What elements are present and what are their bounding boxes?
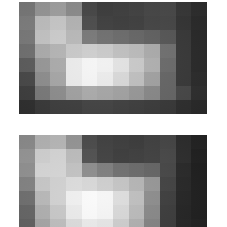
pixel-cell — [129, 135, 145, 149]
pixel-cell — [66, 135, 82, 149]
pixel-cell — [176, 16, 192, 30]
pixel-cell — [129, 72, 145, 86]
pixel-cell — [35, 191, 51, 205]
pixel-cell — [82, 72, 98, 86]
pixel-cell — [129, 177, 145, 191]
pixel-cell — [160, 205, 176, 219]
pixel-cell — [35, 135, 51, 149]
pixel-cell — [66, 2, 82, 16]
pixel-cell — [176, 205, 192, 219]
pixel-cell — [176, 149, 192, 163]
pixel-cell — [50, 30, 66, 44]
pixel-cell — [160, 2, 176, 16]
pixel-cell — [50, 205, 66, 219]
pixel-cell — [66, 191, 82, 205]
pixel-cell — [35, 2, 51, 16]
pixel-cell — [97, 2, 113, 16]
pixel-cell — [50, 72, 66, 86]
pixel-cell — [176, 44, 192, 58]
pixel-cell — [160, 72, 176, 86]
pixel-cell — [113, 72, 129, 86]
pixel-cell — [35, 72, 51, 86]
pixel-cell — [97, 16, 113, 30]
pixel-cell — [19, 177, 35, 191]
pixel-cell — [97, 30, 113, 44]
pixel-cell — [176, 58, 192, 72]
pixel-cell — [113, 205, 129, 219]
pixel-cell — [50, 86, 66, 100]
pixel-cell — [113, 100, 129, 114]
pixel-cell — [19, 72, 35, 86]
pixel-cell — [50, 177, 66, 191]
pixel-cell — [176, 219, 192, 227]
pixel-cell — [19, 100, 35, 114]
pixel-cell — [82, 100, 98, 114]
pixel-cell — [66, 149, 82, 163]
pixel-cell — [50, 163, 66, 177]
pixel-cell — [160, 58, 176, 72]
pixel-cell — [144, 163, 160, 177]
pixel-cell — [129, 44, 145, 58]
pixel-cell — [35, 100, 51, 114]
pixel-cell — [176, 100, 192, 114]
image-patch-bottom — [19, 135, 207, 227]
pixel-cell — [82, 177, 98, 191]
pixel-cell — [191, 2, 207, 16]
pixel-cell — [113, 16, 129, 30]
pixel-cell — [129, 16, 145, 30]
pixel-cell — [35, 177, 51, 191]
pixel-cell — [160, 86, 176, 100]
pixel-cell — [35, 205, 51, 219]
pixel-cell — [191, 100, 207, 114]
pixel-cell — [82, 86, 98, 100]
pixel-cell — [50, 149, 66, 163]
pixel-cell — [144, 72, 160, 86]
pixel-cell — [129, 149, 145, 163]
pixel-cell — [82, 30, 98, 44]
pixel-cell — [35, 58, 51, 72]
pixel-cell — [160, 219, 176, 227]
pixel-cell — [66, 163, 82, 177]
pixel-cell — [160, 16, 176, 30]
pixel-cell — [19, 30, 35, 44]
pixel-cell — [113, 219, 129, 227]
pixel-cell — [50, 219, 66, 227]
pixel-cell — [97, 58, 113, 72]
pixel-cell — [113, 135, 129, 149]
pixel-cell — [97, 44, 113, 58]
pixel-cell — [82, 44, 98, 58]
pixel-cell — [97, 149, 113, 163]
pixel-cell — [191, 30, 207, 44]
pixel-cell — [35, 30, 51, 44]
pixel-cell — [129, 30, 145, 44]
pixel-cell — [19, 58, 35, 72]
pixel-cell — [82, 219, 98, 227]
pixel-cell — [160, 100, 176, 114]
pixel-cell — [19, 149, 35, 163]
pixel-cell — [50, 44, 66, 58]
pixel-cell — [66, 205, 82, 219]
pixel-cell — [160, 44, 176, 58]
pixel-cell — [66, 177, 82, 191]
pixel-cell — [144, 2, 160, 16]
pixel-cell — [191, 205, 207, 219]
pixel-cell — [97, 177, 113, 191]
pixel-cell — [35, 44, 51, 58]
pixel-cell — [191, 191, 207, 205]
pixel-cell — [50, 100, 66, 114]
pixel-cell — [191, 163, 207, 177]
pixel-cell — [160, 30, 176, 44]
pixel-cell — [176, 177, 192, 191]
pixel-cell — [19, 219, 35, 227]
pixel-cell — [35, 149, 51, 163]
pixel-cell — [82, 16, 98, 30]
pixel-cell — [19, 44, 35, 58]
pixel-cell — [191, 177, 207, 191]
pixel-cell — [66, 30, 82, 44]
pixel-cell — [82, 2, 98, 16]
pixel-cell — [66, 16, 82, 30]
pixel-cell — [144, 135, 160, 149]
pixel-cell — [160, 135, 176, 149]
pixel-cell — [191, 72, 207, 86]
pixel-cell — [97, 219, 113, 227]
